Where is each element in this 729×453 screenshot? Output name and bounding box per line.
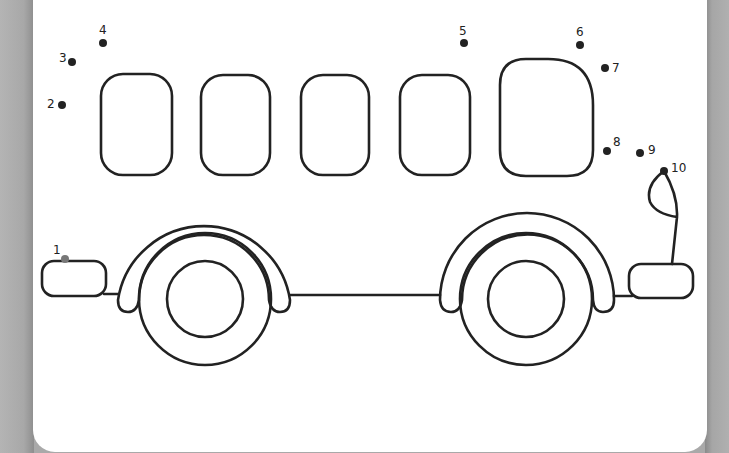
mirror-stalk <box>649 171 677 264</box>
dot-label-4: 4 <box>99 24 107 36</box>
bus-window-1 <box>101 74 172 175</box>
dot-7 <box>601 64 609 72</box>
dot-label-9: 9 <box>648 144 656 156</box>
dot-label-1: 1 <box>53 244 61 256</box>
dot-2 <box>58 101 66 109</box>
dot-9 <box>636 149 644 157</box>
dot-label-5: 5 <box>459 25 467 37</box>
dot-10 <box>660 167 668 175</box>
bus-front-window <box>500 59 593 176</box>
dot-label-8: 8 <box>613 136 621 148</box>
rear-tire <box>139 233 271 365</box>
front-hubcap <box>488 261 564 337</box>
dot-label-2: 2 <box>47 98 55 110</box>
dot-6 <box>576 41 584 49</box>
rear-hubcap <box>167 261 243 337</box>
rear-bumper <box>42 261 106 296</box>
bus-window-3 <box>301 75 369 175</box>
bus-outline-drawing <box>0 0 729 453</box>
dot-label-7: 7 <box>612 62 620 74</box>
bus-window-4 <box>400 75 470 175</box>
front-tire <box>460 233 592 365</box>
dot-8 <box>603 147 611 155</box>
dot-label-10: 10 <box>671 162 686 174</box>
dot-3 <box>68 58 76 66</box>
dot-5 <box>460 39 468 47</box>
front-bumper <box>629 264 693 298</box>
dot-1 <box>61 255 69 263</box>
dot-label-6: 6 <box>576 26 584 38</box>
dot-label-3: 3 <box>59 52 67 64</box>
front-wheel-arch <box>440 213 614 312</box>
dot-4 <box>99 39 107 47</box>
bus-window-2 <box>201 75 270 175</box>
